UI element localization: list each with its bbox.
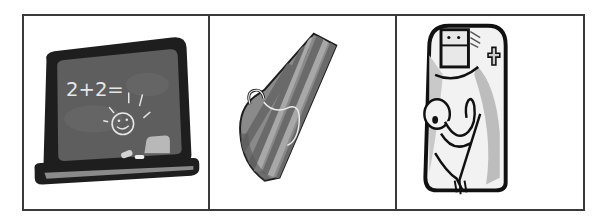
chalk-text: 2+2= xyxy=(66,78,124,101)
panel-chalkboard: 2+2= xyxy=(24,16,210,209)
panel-sled xyxy=(210,16,397,209)
striped-sled-icon xyxy=(210,16,395,209)
nurse-holding-baby-icon xyxy=(397,16,583,209)
panel-nurse-baby xyxy=(397,16,583,209)
image-grid: 2+2= xyxy=(22,14,585,211)
chalkboard-icon: 2+2= xyxy=(24,16,208,209)
